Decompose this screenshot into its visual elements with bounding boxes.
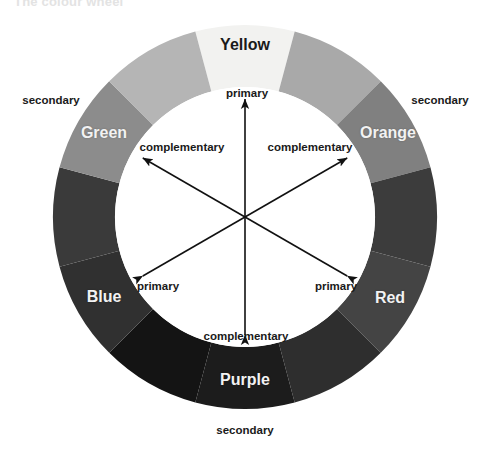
wheel-segment-red-orange xyxy=(371,167,437,266)
color-name-label-green-5: Green xyxy=(81,124,127,142)
inner-caption-primary-3: primary xyxy=(137,280,179,292)
inner-caption-complementary-1: complementary xyxy=(139,141,224,153)
outer-caption-secondary-1: secondary xyxy=(411,94,469,106)
color-name-label-blue-4: Blue xyxy=(87,288,122,306)
color-name-label-orange-1: Orange xyxy=(360,124,416,142)
inner-caption-primary-0: primary xyxy=(226,87,268,99)
outer-caption-secondary-0: secondary xyxy=(22,94,80,106)
color-wheel-diagram: The colour wheel YellowOrangeRedPurpleBl… xyxy=(0,0,492,449)
color-name-label-purple-3: Purple xyxy=(220,371,270,389)
inner-caption-complementary-5: complementary xyxy=(203,330,288,342)
color-name-label-red-2: Red xyxy=(375,289,405,307)
inner-caption-primary-4: primary xyxy=(315,280,357,292)
wheel-segment-blue-green xyxy=(53,167,119,266)
color-name-label-yellow-0: Yellow xyxy=(220,36,270,54)
outer-caption-secondary-2: secondary xyxy=(216,424,274,436)
inner-caption-complementary-2: complementary xyxy=(267,141,352,153)
wheel-segment-yellow xyxy=(195,25,294,91)
